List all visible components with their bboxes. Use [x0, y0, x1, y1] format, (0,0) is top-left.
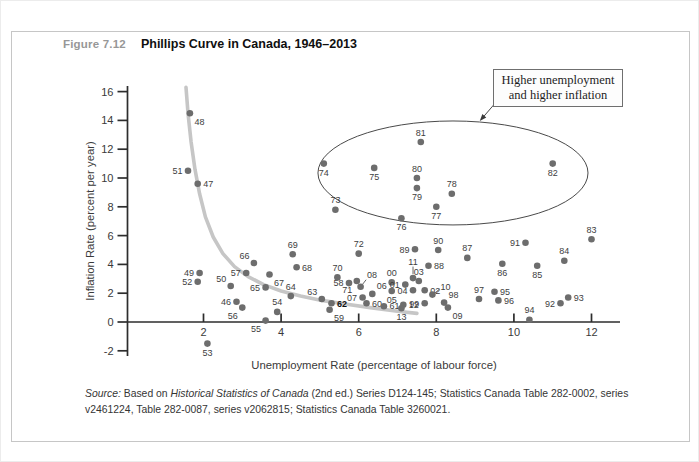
- svg-text:10: 10: [101, 172, 113, 184]
- data-point: [262, 317, 269, 324]
- data-point: [561, 258, 568, 265]
- data-point: [289, 251, 296, 258]
- data-point-label: 73: [330, 195, 340, 205]
- svg-text:4: 4: [107, 258, 113, 270]
- data-point-label: 81: [416, 128, 426, 138]
- data-point: [326, 307, 333, 314]
- data-point-label: 77: [431, 211, 441, 221]
- data-point: [522, 240, 529, 247]
- annotation-line-1: Higher unemployment: [496, 73, 620, 88]
- data-point-label: 57: [231, 268, 241, 278]
- data-point: [262, 284, 269, 291]
- data-point: [412, 246, 419, 253]
- data-point: [357, 283, 364, 290]
- data-point: [194, 278, 201, 285]
- svg-text:16: 16: [101, 86, 113, 98]
- data-point-label: 87: [462, 243, 472, 253]
- data-point-label: 52: [182, 277, 192, 287]
- data-point-label: 68: [302, 263, 312, 273]
- data-point: [239, 304, 246, 311]
- data-point-label: 07: [347, 293, 357, 303]
- data-point: [194, 181, 201, 188]
- data-point-label: 66: [239, 251, 249, 261]
- data-point-label: 65: [250, 283, 260, 293]
- data-point-label: 80: [412, 164, 422, 174]
- svg-text:8: 8: [107, 201, 113, 213]
- data-point-label: 88: [434, 261, 444, 271]
- source-seg1: Based on: [121, 388, 171, 399]
- data-point-label: 78: [447, 179, 457, 189]
- svg-text:14: 14: [101, 114, 113, 126]
- x-axis-title: Unemployment Rate (percentage of labour …: [251, 359, 497, 371]
- data-point-label: 89: [399, 245, 409, 255]
- data-point-label: 90: [433, 236, 443, 246]
- data-point: [363, 300, 370, 307]
- data-point: [499, 260, 506, 267]
- data-point: [435, 247, 442, 254]
- data-point: [233, 299, 240, 306]
- source-italic-title: Historical Statistics of Canada: [171, 388, 309, 399]
- data-point-label: 64: [286, 282, 296, 292]
- data-point: [557, 300, 564, 307]
- svg-text:0: 0: [107, 316, 113, 328]
- data-point: [410, 275, 417, 282]
- data-point: [416, 278, 423, 285]
- data-point: [421, 300, 428, 307]
- data-point: [449, 191, 456, 198]
- data-point: [414, 175, 421, 182]
- data-point-label: 85: [532, 270, 542, 280]
- data-point-label: 06: [377, 281, 387, 291]
- data-point-label: 92: [545, 299, 555, 309]
- data-point: [464, 255, 471, 262]
- data-point: [398, 305, 405, 312]
- data-point: [274, 309, 281, 316]
- data-point: [187, 110, 194, 117]
- data-point-label: 96: [504, 296, 514, 306]
- data-point-label: 62: [337, 299, 347, 309]
- data-point-label: 59: [334, 313, 344, 323]
- data-point: [418, 139, 425, 146]
- data-point-label: 72: [354, 239, 364, 249]
- tick-labels: 24681012-20246810121416: [101, 86, 597, 357]
- data-point-label: 76: [396, 222, 406, 232]
- svg-text:-2: -2: [104, 345, 114, 357]
- data-point-label: 04: [397, 286, 407, 296]
- data-point: [251, 260, 258, 267]
- data-point-label: 82: [548, 168, 558, 178]
- data-point-label: 47: [203, 179, 213, 189]
- svg-text:2: 2: [107, 287, 113, 299]
- data-point: [321, 160, 328, 167]
- data-point-label: 11: [408, 257, 417, 267]
- data-point-label: 60: [372, 299, 382, 309]
- data-point: [243, 270, 250, 277]
- data-point: [534, 263, 541, 270]
- data-point: [293, 264, 300, 271]
- data-point-label: 79: [412, 192, 422, 202]
- svg-text:6: 6: [356, 326, 362, 338]
- svg-text:8: 8: [433, 326, 439, 338]
- data-point: [227, 283, 234, 290]
- data-point: [371, 165, 378, 172]
- data-point: [334, 274, 341, 281]
- figure-page: Figure 7.12 Phillips Curve in Canada, 19…: [0, 0, 699, 462]
- data-point: [425, 263, 432, 270]
- data-point: [204, 340, 211, 347]
- data-point: [445, 304, 452, 311]
- data-point: [196, 270, 203, 277]
- data-point-label: 46: [221, 297, 231, 307]
- source-prefix: Source:: [85, 388, 121, 399]
- data-point: [549, 160, 556, 167]
- svg-text:10: 10: [508, 326, 520, 338]
- data-point-label: 12: [409, 300, 419, 310]
- data-point: [185, 168, 192, 175]
- y-axis-title: Inflation Rate (percent per year): [84, 141, 96, 301]
- data-point-label: 91: [510, 238, 520, 248]
- data-point: [332, 206, 339, 213]
- source-note: Source: Based on Historical Statistics o…: [85, 386, 635, 417]
- data-point-label: 84: [559, 246, 569, 256]
- data-point-label: 83: [586, 225, 596, 235]
- svg-text:2: 2: [200, 326, 206, 338]
- data-point-label: 70: [332, 263, 342, 273]
- data-point-label: 93: [574, 293, 584, 303]
- data-point-label: 56: [228, 311, 238, 321]
